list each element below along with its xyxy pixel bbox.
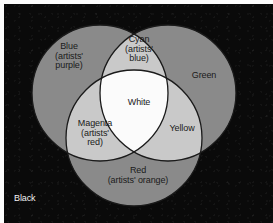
black-background-panel: Blue (artists' purple) Cyan (artists' bl… <box>4 4 273 223</box>
venn-svg <box>4 4 273 223</box>
color-venn-figure: Blue (artists' purple) Cyan (artists' bl… <box>0 0 273 223</box>
venn-diagram <box>4 4 273 223</box>
